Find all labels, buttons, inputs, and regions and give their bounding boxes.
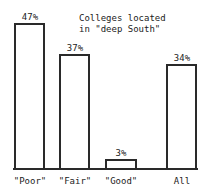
category-label-good: "Good" bbox=[96, 176, 146, 186]
category-label-poor: "Poor" bbox=[5, 176, 55, 186]
chart-title-line-2: in "deep South" bbox=[79, 24, 166, 35]
category-label-fair: "Fair" bbox=[50, 176, 100, 186]
value-label-good: 3% bbox=[101, 148, 141, 158]
value-label-poor: 47% bbox=[10, 12, 50, 22]
bar-all bbox=[166, 64, 197, 169]
bar-fair bbox=[59, 54, 90, 169]
bar-poor bbox=[14, 23, 45, 169]
value-label-all: 34% bbox=[162, 53, 202, 63]
chart-title-line-1: Colleges located bbox=[79, 13, 166, 24]
category-label-all: All bbox=[157, 176, 207, 186]
x-axis-baseline bbox=[13, 168, 198, 170]
chart-title: Colleges located in "deep South" bbox=[79, 13, 166, 35]
value-label-fair: 37% bbox=[55, 43, 95, 53]
